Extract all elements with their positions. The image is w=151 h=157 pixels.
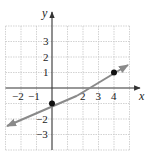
x-tick-label: 4	[111, 90, 117, 102]
x-tick-label: 3	[96, 90, 102, 102]
x-tick-label: −2	[12, 90, 24, 102]
y-tick-label: −2	[36, 113, 48, 125]
coordinate-plane: x y −2 −1 2 3 4 3 2 1 −2 −3	[0, 0, 151, 157]
y-tick-label: 1	[43, 66, 49, 78]
point-4-1	[111, 70, 117, 76]
y-tick-label: 3	[43, 35, 49, 47]
graph-line	[77, 65, 128, 96]
y-tick-label: −3	[36, 128, 48, 140]
y-tick-label: 2	[43, 51, 49, 63]
y-axis-label: y	[41, 6, 48, 20]
point-0-neg1	[49, 101, 55, 107]
x-axis-label: x	[138, 89, 145, 103]
x-tick-label: −1	[28, 90, 40, 102]
